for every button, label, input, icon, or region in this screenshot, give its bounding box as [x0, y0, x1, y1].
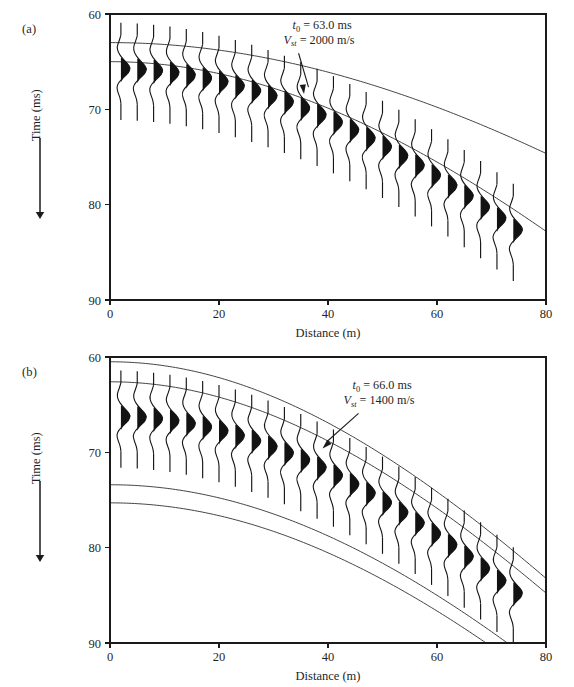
hyperbola-curve: [110, 485, 513, 648]
x-tick-label: 20: [213, 307, 226, 321]
panel-a: (a) 60708090020406080Distance (m)Time (m…: [0, 0, 574, 344]
x-tick-label: 0: [107, 650, 113, 664]
x-tick-label: 80: [540, 307, 553, 321]
x-tick-label: 40: [322, 307, 335, 321]
x-tick-label: 80: [540, 650, 553, 664]
y-tick-label: 60: [89, 351, 102, 365]
y-tick-label: 90: [89, 637, 102, 651]
hyperbola-curve: [110, 362, 546, 579]
wiggle-trace-group: [117, 23, 523, 281]
axes-group: 60708090020406080Distance (m)Time (ms): [29, 8, 552, 341]
y-tick-label: 90: [89, 294, 102, 308]
figure-caption-ghost: [0, 676, 574, 685]
time-direction-arrowhead: [36, 212, 44, 219]
x-axis-title: Distance (m): [296, 326, 361, 340]
figure-root: (a) 60708090020406080Distance (m)Time (m…: [0, 0, 574, 687]
annotation-t0: t0 = 66.0 ms: [353, 378, 412, 394]
annotation-velocity: Vst = 1400 m/s: [344, 393, 415, 409]
plot-content: [110, 23, 546, 281]
y-tick-label: 70: [89, 103, 102, 117]
annotation-arrow: [299, 53, 309, 87]
annotation-velocity: Vst = 2000 m/s: [284, 33, 355, 49]
x-tick-label: 40: [322, 650, 335, 664]
annotation-arrowhead: [300, 84, 306, 94]
annotation-t0: t0 = 63.0 ms: [293, 18, 352, 34]
time-direction-arrowhead: [36, 555, 44, 562]
y-tick-label: 80: [89, 541, 102, 555]
y-axis-title: Time (ms): [29, 89, 43, 141]
annotation-group: t0 = 66.0 msVst = 1400 m/s: [323, 378, 415, 448]
annotation-arrowhead: [323, 440, 332, 449]
axes-group: 60708090020406080Distance (m)Time (ms): [29, 351, 552, 684]
x-tick-label: 0: [107, 307, 113, 321]
panel-b-plot: 60708090020406080Distance (m)Time (ms)t0…: [0, 343, 574, 687]
x-tick-label: 20: [213, 650, 226, 664]
x-tick-label: 60: [431, 307, 444, 321]
panel-a-plot: 60708090020406080Distance (m)Time (ms)t0…: [0, 0, 574, 344]
x-tick-label: 60: [431, 650, 444, 664]
plot-content: [110, 362, 546, 649]
y-tick-label: 70: [89, 446, 102, 460]
hyperbola-curve: [110, 43, 546, 154]
annotation-group: t0 = 63.0 msVst = 2000 m/s: [284, 18, 355, 94]
y-tick-label: 60: [89, 8, 102, 22]
y-tick-label: 80: [89, 198, 102, 212]
y-axis-title: Time (ms): [29, 432, 43, 484]
panel-b: (b) 60708090020406080Distance (m)Time (m…: [0, 343, 574, 687]
